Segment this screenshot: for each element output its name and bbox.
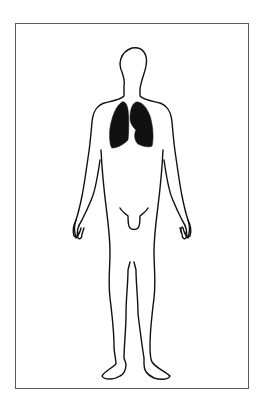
right-lung-highlight [130,102,153,147]
body-outline [73,48,191,380]
human-body-figure [0,0,265,407]
torso-legs-outline [101,150,170,379]
head-outline [75,48,190,238]
groin-outline [120,208,148,230]
left-lung-highlight [110,102,129,148]
